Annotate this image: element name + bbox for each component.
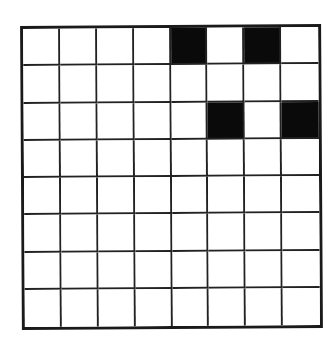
grid-cell-empty	[282, 176, 319, 213]
grid-cell-empty	[97, 65, 134, 102]
grid-cell-empty	[245, 102, 282, 139]
grid-cell-empty	[25, 289, 62, 326]
grid-cell-empty	[207, 28, 244, 65]
grid-cell-empty	[135, 251, 172, 288]
grid-cell-empty	[23, 29, 60, 66]
grid-cell-empty	[134, 140, 171, 177]
grid-cell-empty	[98, 289, 135, 326]
grid-cell-empty	[97, 103, 134, 140]
grid-cell-empty	[245, 176, 282, 213]
grid-cell-filled	[282, 102, 319, 139]
grid-cell-empty	[209, 214, 246, 251]
grid-cell-empty	[98, 177, 135, 214]
grid-cell-empty	[208, 139, 245, 176]
grid-cell-empty	[98, 252, 135, 289]
grid-cell-empty	[61, 177, 98, 214]
grid-cell-empty	[245, 65, 282, 102]
grid-cell-empty	[281, 64, 318, 101]
grid-cell-empty	[61, 252, 98, 289]
grid-cell-empty	[283, 288, 320, 325]
grid-cell-empty	[134, 65, 171, 102]
grid-cell-empty	[209, 288, 246, 325]
grid-cell-filled	[171, 28, 208, 65]
grid-cell-empty	[24, 215, 61, 252]
grid-cell-empty	[134, 103, 171, 140]
grid-cell-empty	[208, 177, 245, 214]
grid-cell-empty	[283, 251, 320, 288]
grid-cell-empty	[172, 289, 209, 326]
grid-cell-empty	[172, 177, 209, 214]
pixel-grid	[20, 24, 323, 330]
grid-cell-filled	[244, 27, 281, 64]
grid-cell-empty	[135, 289, 172, 326]
grid-cell-empty	[24, 252, 61, 289]
grid-cell-empty	[98, 214, 135, 251]
grid-cell-empty	[246, 251, 283, 288]
grid-cell-empty	[60, 28, 97, 65]
grid-cell-empty	[171, 65, 208, 102]
grid-cell-empty	[61, 140, 98, 177]
grid-cell-empty	[171, 140, 208, 177]
grid-cell-empty	[24, 140, 61, 177]
grid-cell-empty	[135, 214, 172, 251]
grid-cell-empty	[97, 28, 134, 65]
grid-cell-empty	[23, 66, 60, 103]
grid-cell-empty	[24, 103, 61, 140]
grid-cell-empty	[24, 178, 61, 215]
grid-cell-filled	[208, 102, 245, 139]
grid-cell-empty	[60, 66, 97, 103]
grid-cell-empty	[282, 139, 319, 176]
grid-cell-empty	[172, 251, 209, 288]
grid-cell-empty	[281, 27, 318, 64]
grid-cell-empty	[245, 214, 282, 251]
grid-cell-empty	[245, 139, 282, 176]
grid-cell-empty	[172, 214, 209, 251]
grid-cell-empty	[60, 103, 97, 140]
grid-cell-empty	[171, 102, 208, 139]
grid-cell-empty	[135, 177, 172, 214]
grid-cell-empty	[209, 251, 246, 288]
grid-cell-empty	[282, 213, 319, 250]
grid-cell-empty	[208, 65, 245, 102]
grid-cell-empty	[98, 140, 135, 177]
grid-cell-empty	[62, 289, 99, 326]
grid-cell-empty	[61, 215, 98, 252]
grid-cell-empty	[134, 28, 171, 65]
grid-cell-empty	[246, 288, 283, 325]
